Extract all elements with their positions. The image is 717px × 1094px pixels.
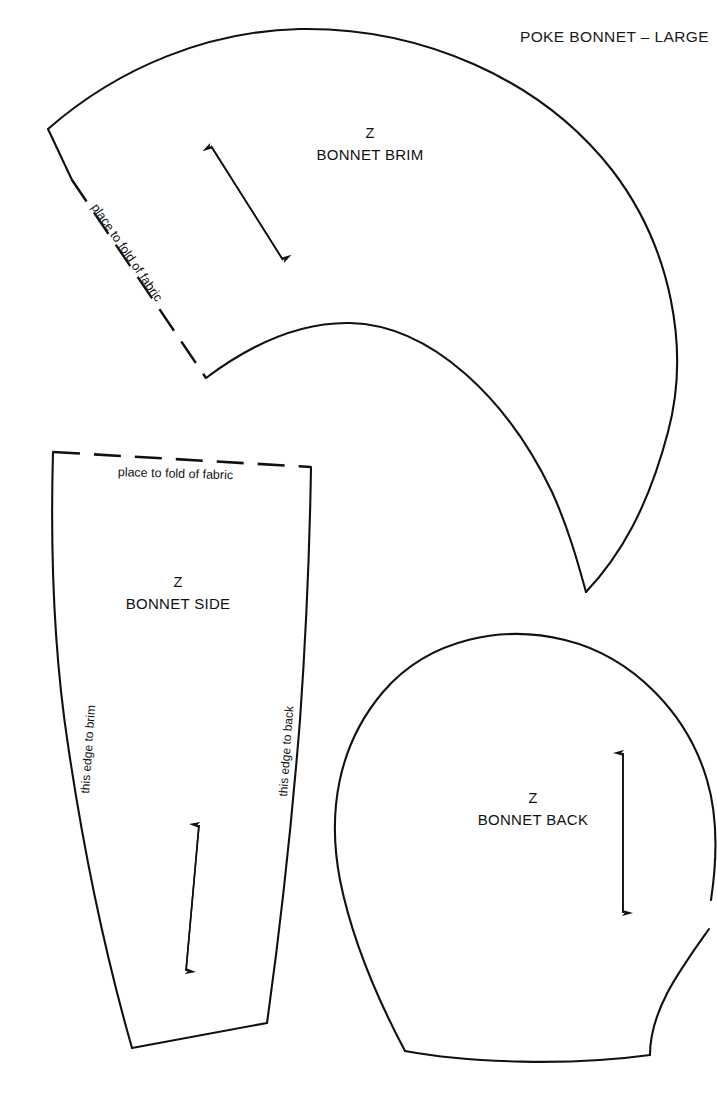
piece-code-side: Z: [113, 572, 243, 593]
piece-code-brim: Z: [305, 123, 435, 144]
piece-name-side: BONNET SIDE: [113, 593, 243, 615]
piece-code-back: Z: [468, 788, 598, 809]
pattern-sheet: POKE BONNET – LARGE Z BONNET BRIM place …: [0, 0, 717, 1094]
piece-name-back: BONNET BACK: [468, 809, 598, 831]
fold-line-side: [53, 452, 311, 467]
piece-outline-back: [335, 634, 716, 1062]
piece-outline-brim: [48, 29, 677, 592]
grainline-arrow-side: [186, 825, 199, 971]
page-title: POKE BONNET – LARGE: [520, 28, 709, 46]
piece-label-brim: Z BONNET BRIM: [305, 123, 435, 166]
piece-label-back: Z BONNET BACK: [468, 788, 598, 831]
grainline-arrow-brim: [211, 146, 283, 260]
piece-name-brim: BONNET BRIM: [305, 144, 435, 166]
piece-label-side: Z BONNET SIDE: [113, 572, 243, 615]
